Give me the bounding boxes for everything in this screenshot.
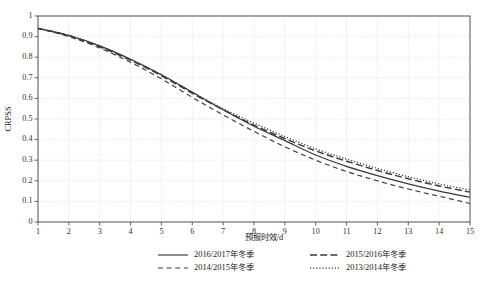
chart-canvas: 12345678910111213141500.10.20.30.40.50.6… xyxy=(0,0,486,286)
x-tick-label: 9 xyxy=(283,227,287,236)
crpss-forecast-lead-time-chart: 12345678910111213141500.10.20.30.40.50.6… xyxy=(0,0,486,286)
y-tick-label: 0.1 xyxy=(22,196,32,205)
x-tick-label: 6 xyxy=(190,227,194,236)
x-tick-label: 10 xyxy=(312,227,320,236)
y-axis-title: CRPSS xyxy=(4,106,13,131)
x-tick-label: 12 xyxy=(373,227,381,236)
x-tick-label: 4 xyxy=(129,227,133,236)
x-tick-label: 15 xyxy=(466,227,474,236)
x-tick-label: 7 xyxy=(221,227,225,236)
legend-label-4: 2013/2014年冬季 xyxy=(346,262,407,272)
data-series xyxy=(38,28,470,203)
y-tick-label: 0.5 xyxy=(22,114,32,123)
x-tick-label: 2 xyxy=(67,227,71,236)
y-tick-label: 0.9 xyxy=(22,31,32,40)
legend-label-3: 2014/2015年冬季 xyxy=(194,262,255,272)
chart-legend: 2016/2017年冬季2015/2016年冬季2014/2015年冬季2013… xyxy=(158,249,407,272)
y-tick-label: 0.6 xyxy=(22,93,32,102)
y-tick-label: 0.4 xyxy=(22,134,32,143)
y-tick-label: 1 xyxy=(28,11,32,20)
legend-label-1: 2016/2017年冬季 xyxy=(194,249,255,259)
y-tick-label: 0.3 xyxy=(22,155,32,164)
legend-label-2: 2015/2016年冬季 xyxy=(346,249,407,259)
y-tick-label: 0 xyxy=(28,217,32,226)
x-tick-label: 5 xyxy=(159,227,163,236)
y-tick-label: 0.2 xyxy=(22,176,32,185)
x-tick-label: 1 xyxy=(36,227,40,236)
series-line-3 xyxy=(38,28,470,203)
x-tick-label: 11 xyxy=(343,227,351,236)
y-tick-label: 0.8 xyxy=(22,52,32,61)
y-tick-label: 0.7 xyxy=(22,73,32,82)
x-tick-label: 3 xyxy=(98,227,102,236)
x-axis-title: 预报时效/d xyxy=(245,232,284,242)
x-tick-label: 14 xyxy=(435,227,443,236)
x-tick-label: 13 xyxy=(404,227,412,236)
